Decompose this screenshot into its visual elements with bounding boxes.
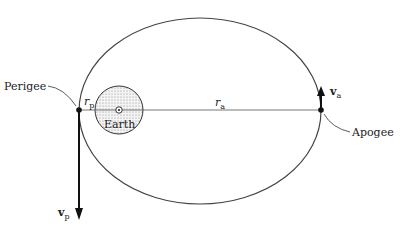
perigee-label: Perigee	[4, 81, 46, 92]
r-a-label: ra	[215, 97, 225, 111]
v-p-label: vp	[58, 207, 70, 221]
earth-label: Earth	[104, 119, 135, 130]
r-p-label: rp	[84, 96, 94, 110]
orbit-diagram: Perigee Apogee Earth rp ra va vp	[0, 0, 407, 232]
orbit-svg	[0, 0, 407, 232]
apogee-leader-line	[324, 114, 350, 132]
apogee-label: Apogee	[352, 127, 394, 138]
perigee-leader-line	[48, 86, 76, 106]
v-a-label: va	[330, 86, 341, 100]
